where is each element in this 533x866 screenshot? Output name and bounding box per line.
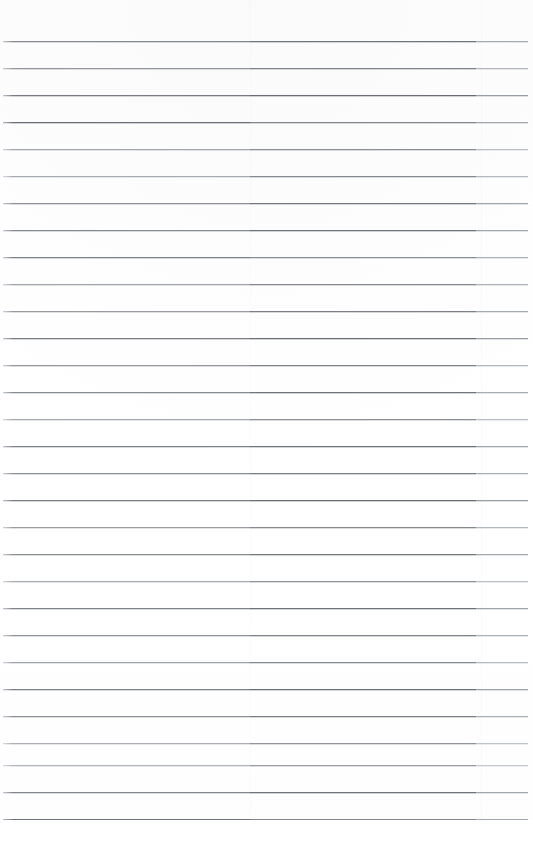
- ruled-line: [3, 176, 528, 178]
- ruled-line-segment: [476, 284, 529, 286]
- ruled-line-segment: [476, 203, 529, 205]
- ruled-line-segment: [476, 662, 529, 664]
- ruled-line-segment: [3, 446, 250, 448]
- ruled-line-segment: [476, 365, 529, 367]
- scanned-page: [0, 0, 533, 866]
- ruled-line-segment: [250, 819, 476, 821]
- ruled-line: [3, 473, 528, 475]
- ruled-line-segment: [476, 122, 529, 124]
- ruled-line-segment: [3, 554, 250, 556]
- ruled-line-segment: [3, 95, 250, 97]
- ruled-line-segment: [476, 149, 529, 151]
- ruled-line-segment: [3, 792, 250, 794]
- ruled-line-segment: [3, 662, 250, 664]
- ruled-line-segment: [476, 581, 529, 583]
- ruled-line: [3, 689, 528, 691]
- ruled-line-segment: [250, 41, 476, 43]
- ruled-lines-layer: [0, 0, 533, 866]
- ruled-line: [3, 257, 528, 259]
- ruled-line-segment: [476, 765, 529, 767]
- ruled-line-segment: [3, 203, 250, 205]
- ruled-line-segment: [476, 41, 529, 43]
- ruled-line: [3, 392, 528, 394]
- ruled-line-segment: [250, 527, 476, 529]
- ruled-line-segment: [476, 635, 529, 637]
- ruled-line-segment: [250, 257, 476, 259]
- ruled-line-segment: [250, 765, 476, 767]
- ruled-line-segment: [476, 311, 529, 313]
- ruled-line-segment: [250, 203, 476, 205]
- ruled-line-segment: [3, 500, 250, 502]
- ruled-line: [3, 284, 528, 286]
- ruled-line: [3, 662, 528, 664]
- ruled-line: [3, 819, 528, 821]
- ruled-line: [3, 419, 528, 421]
- ruled-line-segment: [476, 257, 529, 259]
- ruled-line-segment: [476, 689, 529, 691]
- ruled-line-segment: [250, 284, 476, 286]
- ruled-line-segment: [476, 819, 529, 821]
- ruled-line-segment: [3, 765, 250, 767]
- ruled-line-segment: [476, 392, 529, 394]
- ruled-line-segment: [476, 554, 529, 556]
- ruled-line: [3, 230, 528, 232]
- ruled-line-segment: [250, 689, 476, 691]
- ruled-line-segment: [476, 716, 529, 718]
- ruled-line-segment: [250, 338, 476, 340]
- ruled-line-segment: [250, 662, 476, 664]
- ruled-line-segment: [3, 392, 250, 394]
- ruled-line-segment: [250, 365, 476, 367]
- ruled-line-segment: [476, 176, 529, 178]
- ruled-line: [3, 792, 528, 794]
- ruled-line: [3, 203, 528, 205]
- ruled-line-segment: [250, 95, 476, 97]
- ruled-line-segment: [250, 554, 476, 556]
- ruled-line-segment: [250, 122, 476, 124]
- ruled-line-segment: [476, 419, 529, 421]
- ruled-line-segment: [476, 527, 529, 529]
- ruled-line: [3, 446, 528, 448]
- ruled-line-segment: [476, 792, 529, 794]
- ruled-line-segment: [250, 635, 476, 637]
- ruled-line: [3, 95, 528, 97]
- ruled-line: [3, 716, 528, 718]
- ruled-line-segment: [476, 68, 529, 70]
- ruled-line-segment: [3, 716, 250, 718]
- ruled-line-segment: [476, 95, 529, 97]
- ruled-line-segment: [3, 473, 250, 475]
- ruled-line-segment: [250, 311, 476, 313]
- ruled-line-segment: [3, 311, 250, 313]
- ruled-line-segment: [476, 743, 529, 745]
- ruled-line-segment: [250, 446, 476, 448]
- ruled-line-segment: [3, 176, 250, 178]
- ruled-line-segment: [476, 500, 529, 502]
- ruled-line-segment: [250, 608, 476, 610]
- ruled-line: [3, 608, 528, 610]
- ruled-line-segment: [3, 284, 250, 286]
- ruled-line-segment: [3, 527, 250, 529]
- ruled-line-segment: [250, 716, 476, 718]
- ruled-line-segment: [3, 689, 250, 691]
- ruled-line-segment: [250, 149, 476, 151]
- ruled-line-segment: [3, 257, 250, 259]
- ruled-line-segment: [3, 230, 250, 232]
- ruled-line: [3, 41, 528, 43]
- ruled-line-segment: [3, 608, 250, 610]
- ruled-line-segment: [250, 743, 476, 745]
- ruled-line: [3, 743, 528, 745]
- ruled-line-segment: [250, 792, 476, 794]
- ruled-line-segment: [3, 581, 250, 583]
- ruled-line-segment: [3, 635, 250, 637]
- ruled-line-segment: [250, 230, 476, 232]
- ruled-line: [3, 365, 528, 367]
- ruled-line-segment: [250, 68, 476, 70]
- ruled-line-segment: [3, 365, 250, 367]
- ruled-line: [3, 149, 528, 151]
- ruled-line-segment: [476, 473, 529, 475]
- ruled-line-segment: [476, 608, 529, 610]
- ruled-line: [3, 311, 528, 313]
- ruled-line-segment: [250, 176, 476, 178]
- ruled-line-segment: [3, 149, 250, 151]
- ruled-line: [3, 338, 528, 340]
- ruled-line-segment: [476, 338, 529, 340]
